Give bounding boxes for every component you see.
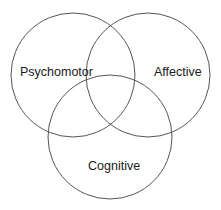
cognitive-label: Cognitive — [88, 159, 140, 173]
venn-svg: Psychomotor Affective Cognitive — [0, 0, 221, 210]
psychomotor-label: Psychomotor — [20, 65, 93, 79]
venn-diagram: Psychomotor Affective Cognitive — [0, 0, 221, 210]
affective-label: Affective — [154, 65, 202, 79]
